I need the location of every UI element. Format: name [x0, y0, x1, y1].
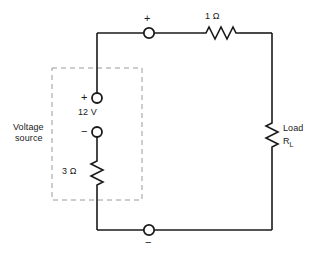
source-terminal-negative-sign: − — [81, 126, 88, 137]
series-resistor-label: 1 Ω — [205, 11, 220, 22]
output-terminal-negative[interactable] — [144, 225, 154, 235]
internal-resistor-symbol — [91, 158, 103, 188]
internal-resistor-label: 3 Ω — [62, 166, 77, 177]
load-resistor-symbol-base: R — [283, 136, 290, 146]
load-resistor-symbol — [266, 120, 278, 150]
circuit-diagram: + − 1 Ω + 12 V − 3 Ω Voltage source Load… — [0, 0, 321, 256]
load-label: Load — [283, 123, 303, 134]
source-terminal-positive-sign: + — [81, 92, 88, 103]
voltage-source-enclosure-label-line2: source — [15, 133, 43, 145]
circuit-schematic-canvas — [0, 0, 321, 256]
series-resistor-symbol — [203, 27, 240, 39]
voltage-source-enclosure-label-line1: Voltage — [13, 122, 44, 134]
output-terminal-positive-sign: + — [144, 13, 151, 24]
source-terminal-positive[interactable] — [92, 93, 102, 103]
source-voltage-label: 12 V — [78, 107, 97, 118]
output-terminal-positive[interactable] — [144, 28, 154, 38]
source-terminal-negative[interactable] — [92, 127, 102, 137]
load-resistor-symbol-label: RL — [283, 136, 294, 150]
output-terminal-negative-sign: − — [145, 237, 152, 248]
load-resistor-symbol-subscript: L — [290, 141, 294, 148]
